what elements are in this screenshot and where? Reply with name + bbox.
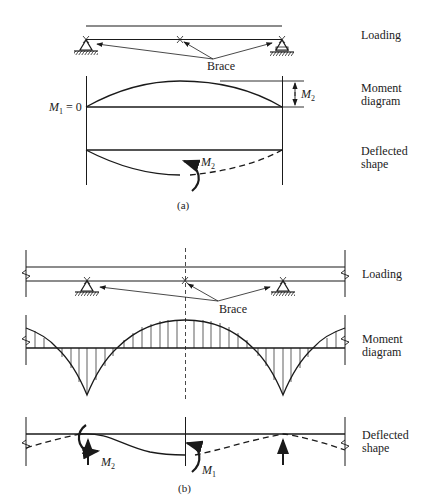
caption-a: (a) [177, 199, 189, 211]
loading-label-a: Loading [361, 29, 401, 42]
pin-support-icon [75, 277, 99, 296]
m2-label-b: M2 [101, 455, 115, 471]
m1-equals-zero-label: M1 = 0 [49, 100, 82, 116]
loading-label-b: Loading [362, 268, 402, 281]
caption-b: (b) [178, 482, 191, 494]
moment-label-b-line2: diagram [362, 346, 401, 359]
figure-canvas [0, 0, 427, 500]
figure-b-deflected-shape [22, 417, 349, 472]
brace-arrow [218, 287, 270, 301]
figure-a-deflected-shape [86, 150, 282, 191]
moment-arrow-icon [184, 161, 199, 191]
figure-b-loading [22, 248, 349, 400]
m1-label-b: M1 [202, 463, 216, 479]
m2-dim-label: M2 [301, 87, 315, 103]
deflected-label-a-line2: shape [361, 158, 388, 171]
brace-label-a: Brace [207, 60, 235, 73]
brace-arrow [184, 42, 213, 59]
pin-support-icon [74, 36, 98, 55]
brace-arrow [188, 284, 218, 301]
moment-label-a-line2: diagram [361, 95, 400, 108]
deflected-label-b-line2: shape [362, 442, 389, 455]
moment-arrow-icon [187, 443, 199, 472]
brace-arrow [97, 44, 213, 59]
figure-a-loading [74, 26, 294, 59]
m2-deflected-label: M2 [201, 155, 215, 171]
brace-label-b: Brace [219, 303, 247, 316]
pin-support-icon [271, 277, 295, 296]
brace-arrow [213, 43, 272, 59]
brace-arrow [100, 287, 218, 301]
